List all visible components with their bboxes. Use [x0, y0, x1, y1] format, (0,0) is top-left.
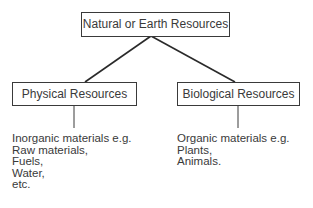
root-node: Natural or Earth Resources — [81, 12, 230, 37]
connector-root-to-biological — [151, 36, 235, 82]
list-item: etc. — [12, 179, 132, 191]
root-node-label: Natural or Earth Resources — [83, 17, 228, 31]
biological-resources-label: Biological Resources — [182, 87, 294, 101]
physical-resources-list: Inorganic materials e.g. Raw materials, … — [12, 133, 132, 191]
physical-resources-label: Physical Resources — [22, 87, 127, 101]
list-item: Inorganic materials e.g. — [12, 133, 132, 145]
biological-resources-node: Biological Resources — [177, 82, 300, 106]
list-item: Organic materials e.g. — [177, 133, 290, 145]
list-item: Animals. — [177, 156, 290, 168]
physical-resources-node: Physical Resources — [12, 82, 137, 106]
connector-root-to-physical — [85, 36, 151, 82]
biological-resources-list: Organic materials e.g. Plants, Animals. — [177, 133, 290, 168]
